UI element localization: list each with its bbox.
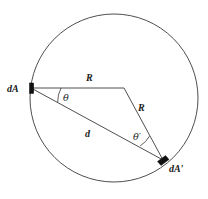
label-radius-second: R bbox=[137, 102, 145, 113]
label-angle-theta-prime: θ′ bbox=[133, 131, 142, 142]
figure-container: dA dA′ R R d θ θ′ bbox=[0, 0, 208, 199]
angle-arc-theta bbox=[58, 88, 61, 102]
diagram-canvas: dA dA′ R R d θ θ′ bbox=[0, 0, 208, 199]
area-element-dA-marker bbox=[30, 83, 34, 94]
label-distance-d: d bbox=[85, 128, 91, 139]
area-element-dA-prime-marker bbox=[158, 156, 170, 166]
angle-arc-theta-prime bbox=[140, 136, 149, 146]
label-dA: dA bbox=[7, 83, 19, 94]
label-angle-theta: θ bbox=[63, 92, 69, 103]
label-radius-first: R bbox=[85, 72, 93, 83]
label-dA-prime: dA′ bbox=[169, 163, 184, 174]
sphere-circle bbox=[30, 14, 198, 182]
